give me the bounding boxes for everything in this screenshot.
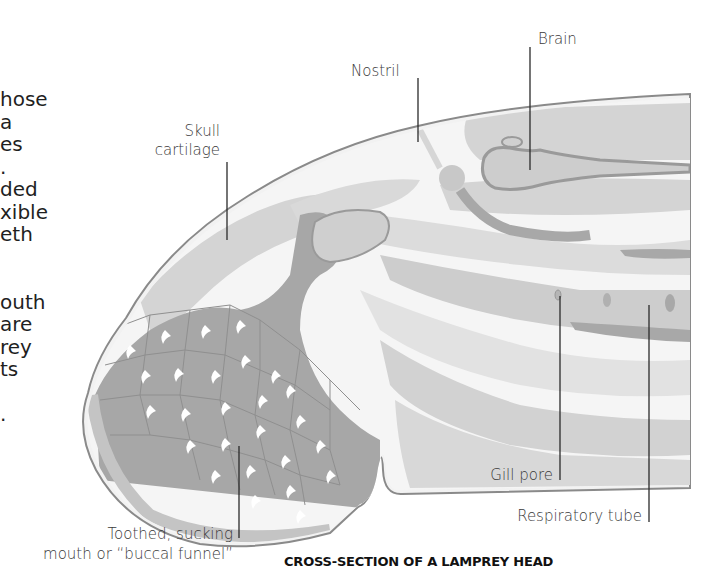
label-skull-cartilage-line1: Skull xyxy=(150,122,220,141)
label-brain: Brain xyxy=(538,30,577,49)
lamprey-head-cross-section xyxy=(0,0,719,588)
label-skull-cartilage-line2: cartilage xyxy=(120,141,220,160)
label-mouth-line1: Toothed, sucking xyxy=(60,525,233,544)
label-gill-pore: Gill pore xyxy=(450,466,553,485)
nasal-sac xyxy=(439,165,465,191)
label-respiratory-tube: Respiratory tube xyxy=(470,507,642,526)
label-mouth-line2: mouth or “buccal funnel” xyxy=(20,545,233,564)
label-nostril: Nostril xyxy=(351,62,400,81)
figure-caption: CROSS-SECTION OF A LAMPREY HEAD xyxy=(284,554,553,569)
